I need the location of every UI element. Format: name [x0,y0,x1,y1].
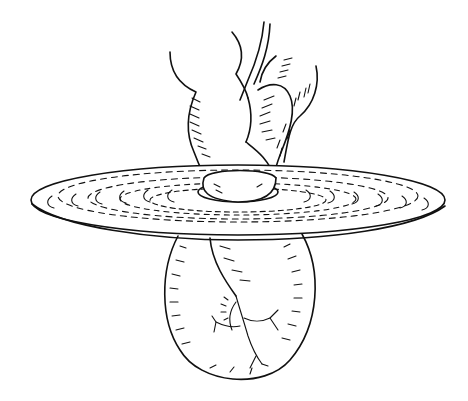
upper-twisted-tube [170,22,317,180]
illustration-svg [0,0,468,401]
lower-loop [165,234,315,379]
line-illustration [0,0,468,401]
tube-through-disc [203,171,276,203]
